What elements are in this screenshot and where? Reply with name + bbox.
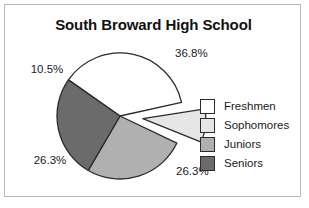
- pie-slice-group: [57, 53, 206, 179]
- chart-legend: FreshmenSophomoresJuniorsSeniors: [200, 97, 295, 173]
- legend-swatch-sophomores: [200, 118, 215, 133]
- legend-label: Freshmen: [224, 101, 276, 113]
- legend-label: Seniors: [224, 158, 263, 170]
- legend-item-freshmen: Freshmen: [200, 97, 295, 116]
- legend-swatch-juniors: [200, 137, 215, 152]
- legend-item-juniors: Juniors: [200, 135, 295, 154]
- pie-label-freshmen: 36.8%: [175, 47, 208, 59]
- legend-item-seniors: Seniors: [200, 154, 295, 173]
- legend-swatch-freshmen: [200, 99, 215, 114]
- legend-item-sophomores: Sophomores: [200, 116, 295, 135]
- pie-label-juniors: 26.3%: [34, 154, 67, 166]
- legend-label: Juniors: [224, 139, 261, 151]
- pie-label-sophomores: 10.5%: [31, 63, 64, 75]
- pie-chart-figure: South Broward High School 36.8%10.5%26.3…: [0, 0, 309, 208]
- legend-label: Sophomores: [224, 120, 289, 132]
- legend-swatch-seniors: [200, 156, 215, 171]
